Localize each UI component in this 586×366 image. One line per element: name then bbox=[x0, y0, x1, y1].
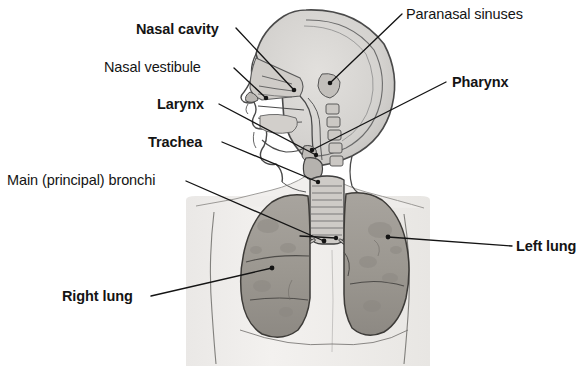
label-left-lung: Left lung bbox=[516, 239, 576, 254]
label-paranasal-sinuses: Paranasal sinuses bbox=[406, 7, 523, 22]
label-larynx: Larynx bbox=[157, 97, 204, 112]
label-pharynx: Pharynx bbox=[452, 75, 509, 90]
head-sagittal-section bbox=[241, 10, 395, 200]
label-main-bronchi: Main (principal) bronchi bbox=[7, 173, 155, 188]
label-trachea: Trachea bbox=[148, 135, 202, 150]
label-nasal-vestibule: Nasal vestibule bbox=[104, 60, 201, 75]
label-nasal-cavity: Nasal cavity bbox=[136, 22, 219, 37]
label-right-lung: Right lung bbox=[62, 289, 133, 304]
